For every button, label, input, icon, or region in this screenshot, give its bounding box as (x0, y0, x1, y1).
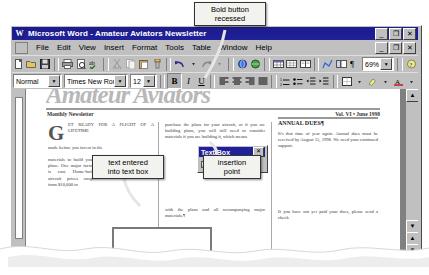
callout-bold-button-recessed: Bold button recessed (194, 2, 266, 26)
callout-line-2: into text box (97, 167, 159, 176)
callout-insertion-point: insertion point (203, 155, 261, 179)
callout-line-1: Bold button (199, 5, 261, 14)
callout-text-entered-into-text-box: text entered into text box (92, 155, 164, 179)
callout-leader-lines (0, 0, 429, 275)
screenshot-root: W Microsoft Word - Amateur Aviators News… (0, 0, 429, 275)
callout-line-2: recessed (199, 14, 261, 23)
callout-line-2: point (208, 167, 256, 176)
callout-line-1: text entered (97, 158, 159, 167)
callout-line-1: insertion (208, 158, 256, 167)
